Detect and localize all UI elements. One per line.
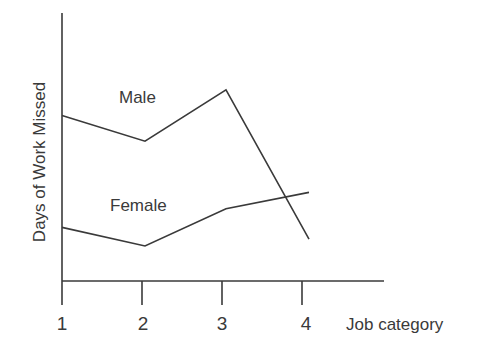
series-lines <box>62 90 309 246</box>
female-line <box>62 192 309 246</box>
series-label-female: Female <box>110 196 167 215</box>
x-axis-label: Job category <box>346 315 444 334</box>
series-label-male: Male <box>119 88 156 107</box>
x-tick-label: 1 <box>57 313 68 334</box>
x-tick-label: 4 <box>301 313 312 334</box>
y-axis-label: Days of Work Missed <box>30 82 49 242</box>
x-tick-label: 3 <box>217 313 228 334</box>
x-tick-labels: 1 2 3 4 <box>57 313 312 334</box>
male-line <box>62 90 309 239</box>
x-tick-label: 2 <box>138 313 149 334</box>
line-chart: 1 2 3 4 Job category Days of Work Missed… <box>0 0 491 350</box>
axes <box>62 13 384 305</box>
